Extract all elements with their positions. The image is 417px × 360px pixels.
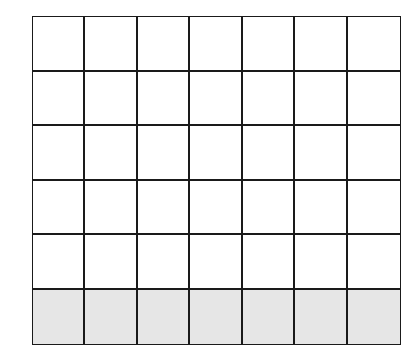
grid-cell (190, 126, 242, 181)
grid-cell (85, 235, 137, 290)
grid-cell (85, 17, 137, 72)
grid-cell (138, 181, 190, 236)
grid-cell (33, 72, 85, 127)
grid-cell (190, 181, 242, 236)
grid-cell (243, 126, 295, 181)
grid-cell (348, 290, 400, 345)
grid-cell (33, 181, 85, 236)
grid-cell (243, 181, 295, 236)
grid-cell (348, 126, 400, 181)
grid-cell (33, 290, 85, 345)
grid-cell (138, 17, 190, 72)
grid-cell (295, 235, 347, 290)
grid-cell (295, 17, 347, 72)
grid-cell (33, 17, 85, 72)
grid-diagram (32, 16, 401, 345)
grid-cell (243, 17, 295, 72)
grid-cell (295, 72, 347, 127)
grid-cell (85, 126, 137, 181)
grid-cell (138, 126, 190, 181)
grid-cell (190, 290, 242, 345)
grid-cell (190, 235, 242, 290)
grid-cell (348, 235, 400, 290)
grid-cell (243, 290, 295, 345)
grid-cell (138, 290, 190, 345)
grid-cell (348, 17, 400, 72)
grid-cell (295, 181, 347, 236)
grid-cell (138, 72, 190, 127)
grid-cell (85, 290, 137, 345)
grid-cell (348, 72, 400, 127)
grid-cell (138, 235, 190, 290)
grid-cell (190, 72, 242, 127)
grid-cell (295, 126, 347, 181)
grid-cell (243, 72, 295, 127)
grid-cell (295, 290, 347, 345)
grid-cell (348, 181, 400, 236)
grid-cell (85, 72, 137, 127)
grid-cell (33, 235, 85, 290)
grid-cell (33, 126, 85, 181)
grid-cell (190, 17, 242, 72)
grid-cell (243, 235, 295, 290)
grid-cell (85, 181, 137, 236)
